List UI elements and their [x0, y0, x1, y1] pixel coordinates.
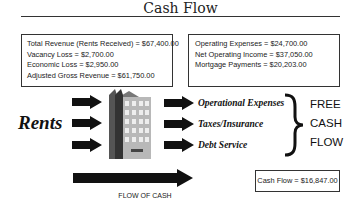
page-title: Cash Flow: [0, 0, 361, 16]
revenue-summary-box: Total Revenue (Rents Received) = $67,400…: [21, 34, 173, 87]
arrow-right-icon: [164, 117, 194, 131]
arrow-right-icon: [72, 116, 102, 130]
mortgage-payments: Mortgage Payments = $20,203.00: [195, 60, 333, 71]
rents-label: Rents: [18, 112, 62, 134]
outflow-debt-service: Debt Service: [198, 140, 247, 150]
flow-of-cash-arrow-icon: [73, 169, 193, 187]
arrow-right-icon: [164, 138, 194, 152]
cash-flow-result-box: Cash Flow = $16,847.00: [255, 170, 340, 192]
building-icon: [105, 89, 153, 161]
arrow-right-icon: [72, 95, 102, 109]
title-divider: [21, 16, 340, 17]
outflow-taxes-insurance: Taxes/Insurance: [198, 119, 263, 129]
total-revenue: Total Revenue (Rents Received) = $67,400…: [27, 39, 167, 50]
vacancy-loss: Vacancy Loss = $2,700.00: [27, 50, 167, 61]
arrow-right-icon: [72, 138, 102, 152]
outflow-operational-expenses: Operational Expenses: [198, 98, 284, 108]
adjusted-gross-revenue: Adjusted Gross Revenue = $61,750.00: [27, 71, 167, 82]
economic-loss: Economic Loss = $2,950.00: [27, 60, 167, 71]
flow-of-cash-label: FLOW OF CASH: [90, 192, 200, 199]
right-brace-icon: [283, 93, 305, 157]
free-cash-flow-label: FREE CASH FLOW: [310, 95, 343, 152]
arrow-right-icon: [164, 96, 194, 110]
expense-summary-box: Operating Expenses = $24,700.00 Net Oper…: [188, 34, 340, 87]
net-operating-income: Net Operating Income = $37,050.00: [195, 50, 333, 61]
operating-expenses: Operating Expenses = $24,700.00: [195, 39, 333, 50]
